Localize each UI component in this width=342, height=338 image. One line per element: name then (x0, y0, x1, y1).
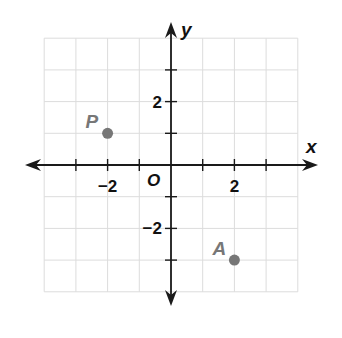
point-p (102, 128, 113, 139)
x-tick-label: 2 (230, 177, 239, 196)
axes (25, 22, 318, 306)
coordinate-plane: −222−2 x y O PA (0, 0, 342, 338)
point-label-p: P (86, 111, 99, 132)
origin-label: O (147, 171, 160, 190)
point-a (229, 255, 240, 266)
y-tick-label: 2 (153, 93, 162, 112)
point-label-a: A (211, 238, 226, 259)
x-axis-label: x (305, 136, 318, 157)
y-tick-label: −2 (143, 219, 162, 238)
y-axis-label: y (180, 19, 193, 40)
x-tick-label: −2 (98, 177, 117, 196)
